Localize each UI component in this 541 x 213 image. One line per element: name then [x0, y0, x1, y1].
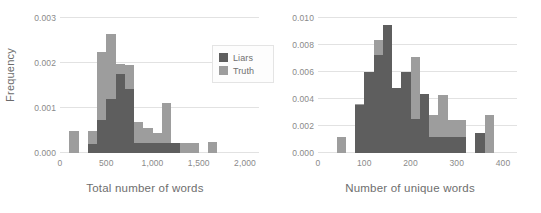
histogram-bar [97, 120, 106, 153]
histogram-bar [190, 143, 199, 153]
histogram-bar [106, 99, 115, 153]
histogram-bar [125, 89, 134, 153]
y-tick-label: 0.004 [276, 94, 314, 104]
legend: Liars Truth [212, 45, 274, 83]
histogram-bar [337, 137, 346, 153]
histogram-bar [171, 143, 180, 153]
histogram-bar [180, 143, 189, 153]
x-tick-label: 100 [344, 158, 384, 168]
histogram-bar [88, 144, 97, 153]
x-axis-title-right: Number of unique words [290, 182, 530, 194]
x-tick-label: 200 [391, 158, 431, 168]
histogram-bar [448, 137, 457, 153]
x-tick-label: 300 [437, 158, 477, 168]
histogram-bar [392, 88, 401, 153]
x-tick-label: 500 [86, 158, 126, 168]
histogram-bar [208, 142, 217, 153]
gridline [60, 107, 259, 108]
x-tick-label: 1,000 [133, 158, 173, 168]
histogram-bar [153, 143, 162, 153]
histogram-bar [143, 143, 152, 153]
x-tick-label: 1,500 [179, 158, 219, 168]
histogram-bar [457, 137, 466, 153]
legend-swatch-liars [219, 53, 228, 62]
histogram-bar [116, 74, 125, 153]
plot-area-right [318, 18, 503, 153]
y-axis-title-left: Frequency [2, 0, 18, 150]
legend-swatch-truth [219, 66, 228, 75]
histogram-bar [355, 105, 364, 153]
histogram-bar [420, 94, 429, 153]
y-tick-label: 0.002 [276, 121, 314, 131]
y-tick-label: 0.008 [276, 40, 314, 50]
y-tick-label: 0.010 [276, 13, 314, 23]
chart-panel-right: 0.0000.0020.0040.0060.0080.010 010020030… [270, 0, 541, 213]
gridline [60, 17, 259, 18]
legend-item-truth: Truth [219, 64, 266, 77]
histogram-bar [134, 143, 143, 153]
histogram-bar [364, 72, 373, 153]
histogram-bar [475, 133, 484, 153]
legend-label-truth: Truth [233, 66, 254, 76]
histogram-bar [429, 137, 438, 153]
x-tick-label: 0 [40, 158, 80, 168]
histogram-bar [411, 119, 420, 153]
y-tick-label: 0.003 [18, 13, 56, 23]
y-tick-label: 0.000 [18, 148, 56, 158]
histogram-bar [401, 72, 410, 153]
histogram-bar [438, 137, 447, 153]
y-tick-label: 0.000 [276, 148, 314, 158]
x-tick-label: 2,000 [225, 158, 265, 168]
chart-panel-left: Frequency 0.0000.0010.0020.003 05001,000… [0, 0, 270, 213]
gridline [318, 44, 517, 45]
gridline [318, 17, 517, 18]
x-tick-label: 0 [298, 158, 338, 168]
y-tick-label: 0.006 [276, 67, 314, 77]
y-tick-label: 0.002 [18, 58, 56, 68]
histogram-bar [162, 143, 171, 153]
legend-item-liars: Liars [219, 51, 266, 64]
figure-root: Frequency 0.0000.0010.0020.003 05001,000… [0, 0, 541, 213]
plot-area-left [60, 18, 245, 153]
x-tick-label: 400 [483, 158, 523, 168]
histogram-bar [374, 55, 383, 153]
histogram-bar [485, 115, 494, 153]
legend-label-liars: Liars [233, 53, 253, 63]
y-tick-label: 0.001 [18, 103, 56, 113]
x-axis-title-left: Total number of words [30, 182, 260, 194]
histogram-bar [383, 25, 392, 153]
histogram-bar [69, 131, 78, 153]
